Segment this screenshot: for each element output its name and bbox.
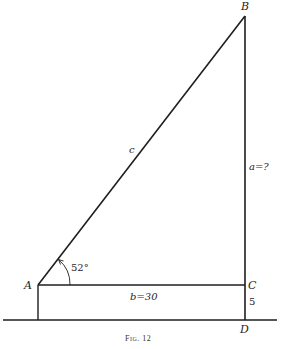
hypotenuse-line [38,16,245,285]
side-label-a: a=? [249,161,269,172]
figure-caption: Fig. 12 [125,334,151,343]
angle-label: 52° [71,262,89,273]
right-triangle-diagram: B A C D c a=? b=30 5 52° Fig. 12 [0,0,282,349]
vertex-label-b: B [240,0,249,13]
side-label-b: b=30 [130,291,158,302]
height-label: 5 [249,296,255,307]
vertex-label-c: C [248,279,257,292]
vertex-label-d: D [239,323,249,336]
vertex-label-a: A [23,279,32,292]
side-label-c: c [129,144,135,155]
